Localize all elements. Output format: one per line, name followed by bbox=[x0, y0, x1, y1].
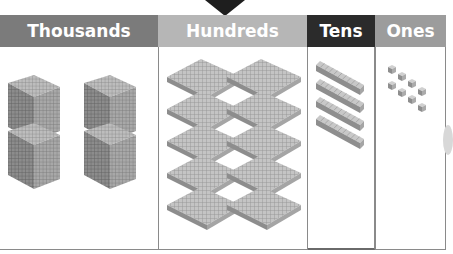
header-tens: Tens bbox=[307, 15, 375, 47]
header-label: Tens bbox=[319, 21, 362, 41]
down-triangle-icon bbox=[205, 0, 245, 16]
cube bbox=[8, 123, 60, 189]
header-label: Ones bbox=[386, 21, 434, 41]
unit-cubes bbox=[376, 47, 446, 250]
column-tens bbox=[308, 47, 375, 250]
header-thousands: Thousands bbox=[0, 15, 158, 47]
ten-rods bbox=[308, 47, 374, 250]
thousand-cubes bbox=[0, 47, 158, 250]
header-ones: Ones bbox=[375, 15, 446, 47]
page-edge-shadow bbox=[443, 125, 453, 155]
header-label: Thousands bbox=[27, 21, 130, 41]
hundred-flats bbox=[159, 47, 307, 250]
header-label: Hundreds bbox=[186, 21, 279, 41]
header-hundreds: Hundreds bbox=[158, 15, 307, 47]
column-hundreds bbox=[158, 47, 308, 250]
column-thousands bbox=[0, 47, 159, 250]
column-ones bbox=[375, 47, 446, 250]
cube bbox=[84, 123, 136, 189]
